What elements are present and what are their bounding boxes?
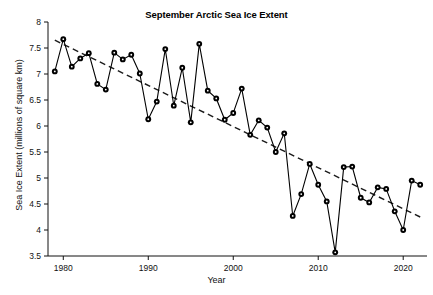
data-point-center xyxy=(79,58,81,60)
data-point-center xyxy=(266,127,268,129)
chart-container: September Arctic Sea Ice Extent Sea Ice … xyxy=(0,0,433,295)
x-tick-label: 1980 xyxy=(54,263,73,273)
data-point-center xyxy=(360,197,362,199)
data-point-center xyxy=(309,163,311,165)
y-tick-label: 7 xyxy=(36,69,41,79)
data-point-center xyxy=(62,38,64,40)
data-point-center xyxy=(207,90,209,92)
data-point-center xyxy=(300,193,302,195)
y-tick-label: 5.5 xyxy=(29,147,41,157)
data-point-center xyxy=(164,48,166,50)
data-point-center xyxy=(88,52,90,54)
data-line xyxy=(55,39,420,252)
data-point-markers xyxy=(52,36,423,255)
data-point-center xyxy=(343,166,345,168)
data-point-center xyxy=(241,88,243,90)
data-point-center xyxy=(326,201,328,203)
data-point-center xyxy=(105,89,107,91)
data-point-center xyxy=(419,184,421,186)
x-tick-label: 2010 xyxy=(309,263,328,273)
data-point-center xyxy=(249,134,251,136)
data-point-center xyxy=(71,66,73,68)
data-point-center xyxy=(292,215,294,217)
y-tick-label: 6 xyxy=(36,121,41,131)
data-point-center xyxy=(334,251,336,253)
data-point-center xyxy=(317,184,319,186)
data-point-center xyxy=(113,52,115,54)
data-point-center xyxy=(394,210,396,212)
data-point-center xyxy=(377,186,379,188)
data-point-center xyxy=(139,73,141,75)
data-point-center xyxy=(147,118,149,120)
data-point-center xyxy=(198,43,200,45)
x-tick-label: 2000 xyxy=(224,263,243,273)
data-point-center xyxy=(122,59,124,61)
y-tick-label: 7.5 xyxy=(29,43,41,53)
data-point-center xyxy=(181,67,183,69)
data-point-center xyxy=(258,119,260,121)
data-point-center xyxy=(283,132,285,134)
data-point-center xyxy=(411,180,413,182)
y-tick-label: 4.5 xyxy=(29,199,41,209)
data-point-center xyxy=(385,188,387,190)
data-point-center xyxy=(130,54,132,56)
y-tick-label: 6.5 xyxy=(29,95,41,105)
data-point-center xyxy=(275,151,277,153)
trend-line xyxy=(55,40,420,217)
data-point-center xyxy=(351,166,353,168)
plot-area: 3.544.555.566.577.58 1980199020002010202… xyxy=(0,0,433,295)
data-point-center xyxy=(402,229,404,231)
data-point-center xyxy=(156,101,158,103)
data-point-center xyxy=(224,119,226,121)
y-tick-label: 4 xyxy=(36,225,41,235)
data-point-center xyxy=(215,98,217,100)
y-axis-ticks: 3.544.555.566.577.58 xyxy=(29,17,48,261)
data-point-center xyxy=(54,71,56,73)
data-point-center xyxy=(190,121,192,123)
y-tick-label: 3.5 xyxy=(29,251,41,261)
x-tick-label: 1990 xyxy=(139,263,158,273)
data-point-center xyxy=(173,105,175,107)
data-point-center xyxy=(368,202,370,204)
y-tick-label: 5 xyxy=(36,173,41,183)
x-axis-ticks: 19801990200020102020 xyxy=(54,256,413,273)
data-point-center xyxy=(232,112,234,114)
x-tick-label: 2020 xyxy=(394,263,413,273)
data-point-center xyxy=(96,83,98,85)
y-tick-label: 8 xyxy=(36,17,41,27)
